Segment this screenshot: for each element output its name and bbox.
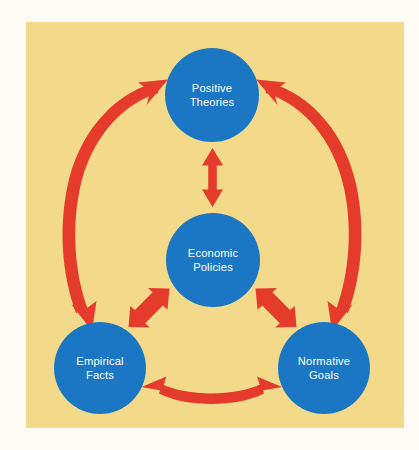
node-normative-goals[interactable]: Normative Goals [278,322,370,414]
normative-goals-label-2: Goals [309,369,339,381]
node-positive-theories[interactable]: Positive Theories [165,48,259,142]
normative-goals-circle[interactable] [278,322,370,414]
positive-theories-label-2: Theories [190,96,235,108]
empirical-facts-circle[interactable] [54,322,146,414]
normative-goals-label: Normative [298,355,350,367]
economic-policies-label-2: Policies [193,261,233,273]
economic-policies-cycle-diagram: Positive Theories Economic Policies Empi… [0,0,419,450]
positive-theories-circle[interactable] [165,48,259,142]
empirical-facts-label: Empirical [76,355,123,367]
node-economic-policies[interactable]: Economic Policies [166,213,260,307]
economic-policies-circle[interactable] [166,213,260,307]
positive-theories-label: Positive [192,82,232,94]
node-empirical-facts[interactable]: Empirical Facts [54,322,146,414]
economic-policies-label: Economic [188,247,239,259]
empirical-facts-label-2: Facts [86,369,114,381]
diagram-canvas: Positive Theories Economic Policies Empi… [0,0,419,450]
